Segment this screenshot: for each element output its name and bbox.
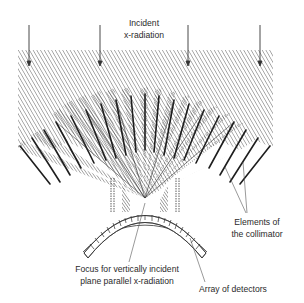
collimator-label: Elements of the collimator <box>222 216 292 240</box>
focus-line-2: plane parallel x-radiation <box>52 275 202 287</box>
collimator-line-2: the collimator <box>222 228 292 240</box>
focus-line-1: Focus for vertically incident <box>52 263 202 275</box>
detectors-line: Array of detectors <box>188 283 278 295</box>
incident-line-2: x-radiation <box>112 29 176 41</box>
incident-radiation-label: Incident x-radiation <box>112 17 176 41</box>
detector-array <box>83 215 207 258</box>
detectors-label: Array of detectors <box>188 283 278 295</box>
collimator-diagram <box>0 0 304 303</box>
focus-label: Focus for vertically incident plane para… <box>52 263 202 287</box>
collimator-line-1: Elements of <box>222 216 292 228</box>
incident-line-1: Incident <box>112 17 176 29</box>
